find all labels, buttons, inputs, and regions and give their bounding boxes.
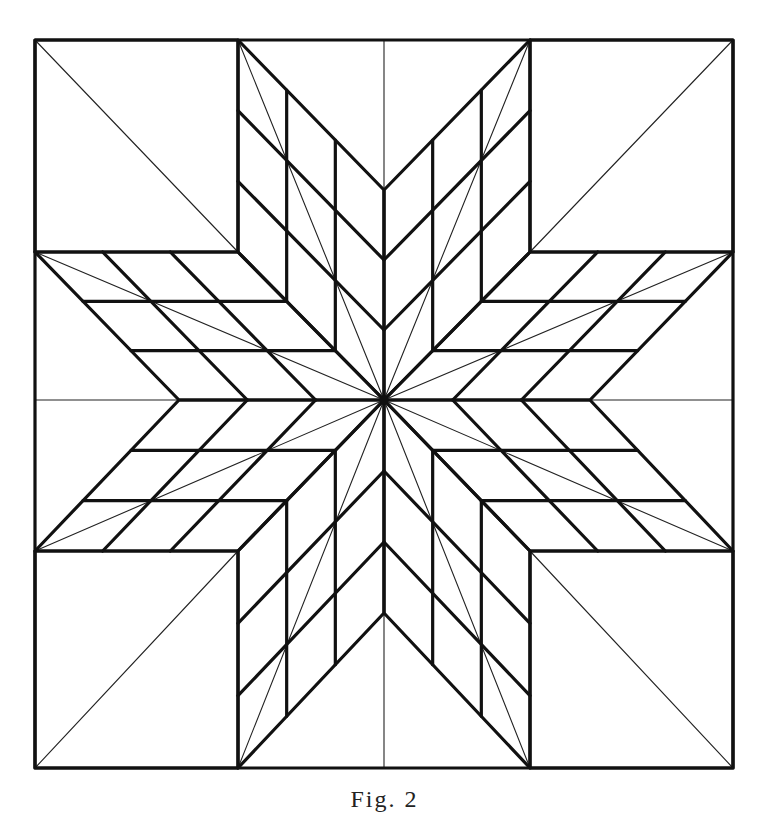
diamond-grid-line: [170, 252, 315, 400]
diamond-diagonal: [238, 400, 384, 768]
diamond-grid-line: [521, 400, 665, 551]
diamond-grid-line: [238, 181, 384, 330]
diamond-diagonal: [238, 40, 384, 400]
diamond-diagonal: [384, 400, 733, 551]
diamond-diagonal: [384, 252, 733, 400]
corner-diagonal-top-left: [35, 40, 238, 252]
diamond-grid-line: [453, 400, 598, 551]
diamond-grid-line: [384, 111, 530, 260]
corner-diagonal-bottom-right: [530, 551, 733, 768]
diamond-diagonal: [35, 400, 384, 551]
corner-diagonal-top-right: [530, 40, 733, 252]
diamond-grid-line: [238, 111, 384, 260]
diamond-grid-line: [103, 252, 248, 400]
diamond-diagonal: [384, 40, 530, 400]
corner-diagonal-bottom-left: [35, 551, 238, 768]
diamond-grid-line: [453, 252, 598, 400]
diamond-grid-line: [521, 252, 665, 400]
diamond-diagonal: [35, 252, 384, 400]
star-center-dot: [380, 396, 389, 405]
diamond-grid-line: [238, 471, 384, 623]
diamond-grid-line: [384, 542, 530, 696]
diamond-grid-line: [238, 542, 384, 696]
diamond-grid-line: [384, 181, 530, 330]
diamond-diagonal: [384, 400, 530, 768]
figure-caption: Fig. 2: [0, 786, 769, 813]
diamond-grid-line: [103, 400, 248, 551]
diamond-grid-line: [384, 471, 530, 623]
diamond-grid-line: [170, 400, 315, 551]
